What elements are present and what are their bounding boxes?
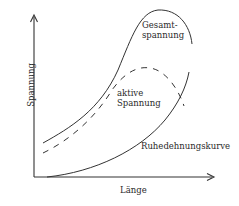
- x-axis-label: Länge: [120, 185, 147, 195]
- label-gesamtspannung-line1: Gesamt-: [142, 20, 184, 30]
- y-axis-label: Spannung: [26, 63, 36, 107]
- label-ruhedehnungskurve: Ruhedehnungskurve: [141, 141, 230, 151]
- label-aktive-spannung: aktive Spannung: [117, 88, 161, 108]
- label-aktive-spannung-line1: aktive: [117, 88, 161, 98]
- x-axis: [34, 174, 214, 181]
- length-tension-diagram: Gesamt- spannung aktive Spannung Ruhedeh…: [0, 0, 239, 206]
- label-aktive-spannung-line2: Spannung: [117, 98, 161, 108]
- label-gesamtspannung: Gesamt- spannung: [142, 20, 184, 40]
- label-gesamtspannung-line2: spannung: [142, 30, 184, 40]
